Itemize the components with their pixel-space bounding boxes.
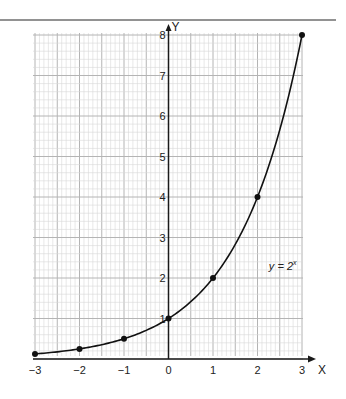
x-tick-label: −3 — [29, 364, 42, 376]
x-tick-label: 2 — [254, 364, 260, 376]
y-axis-label: Y — [172, 20, 180, 34]
data-point — [166, 316, 172, 322]
y-tick-label: 7 — [159, 70, 165, 82]
x-tick-label: 3 — [299, 364, 305, 376]
y-tick-label: 8 — [159, 29, 165, 41]
data-point — [32, 351, 38, 357]
x-tick-label: 0 — [165, 364, 171, 376]
y-tick-label: 2 — [159, 272, 165, 284]
x-tick-label: 1 — [210, 364, 216, 376]
data-point — [121, 336, 127, 342]
x-axis-arrow-icon — [308, 356, 316, 363]
exponential-chart: X Y −3−2−10123 12345678 y = 2x — [0, 0, 346, 399]
data-point — [77, 346, 83, 352]
data-point — [210, 275, 216, 281]
y-tick-label: 6 — [159, 110, 165, 122]
y-tick-label: 3 — [159, 232, 165, 244]
data-point — [255, 194, 261, 200]
y-tick-labels: 12345678 — [159, 29, 165, 325]
x-tick-label: −1 — [118, 364, 131, 376]
y-tick-label: 4 — [159, 191, 165, 203]
x-axis-label: X — [318, 363, 326, 377]
axes: X Y — [33, 20, 326, 377]
equation-label: y = 2x — [268, 259, 297, 272]
x-tick-label: −2 — [73, 364, 86, 376]
x-tick-labels: −3−2−10123 — [29, 364, 305, 376]
data-point — [299, 32, 305, 38]
y-tick-label: 5 — [159, 151, 165, 163]
